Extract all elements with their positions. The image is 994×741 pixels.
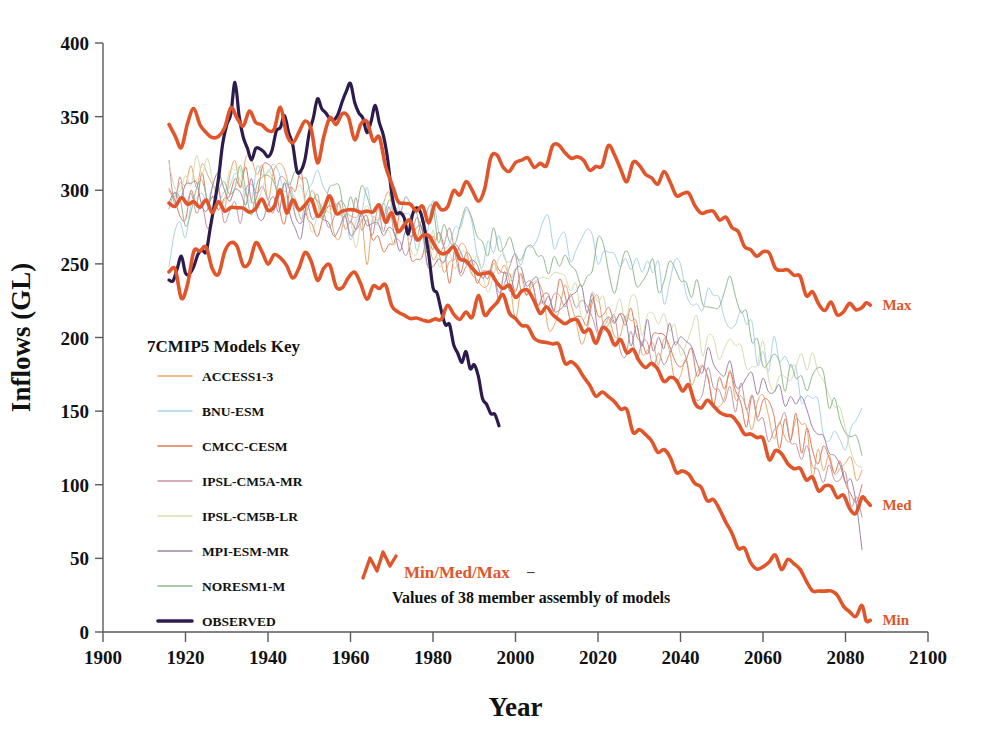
x-tick-label: 2100 [909,647,947,668]
x-tick-label: 2080 [827,647,865,668]
legend-item-label: CMCC-CESM [202,439,288,454]
legend-title: 7CMIP5 Models Key [147,337,300,356]
x-tick-label: 1900 [84,647,122,668]
annotation-headline: Min/Med/Max [404,563,510,582]
x-tick-label: 1980 [414,647,452,668]
inflows-projection-chart: 0501001502002503003504001900192019401960… [0,0,994,741]
legend-item-label: OBSERVED [202,614,276,629]
chart-page: 0501001502002503003504001900192019401960… [0,0,994,741]
x-tick-label: 2020 [579,647,617,668]
y-tick-label: 350 [61,107,90,128]
legend-item-label: IPSL-CM5A-MR [202,474,303,489]
y-tick-label: 50 [70,548,89,569]
band-label-med: Med [882,497,912,513]
band-label-max: Max [882,297,912,313]
x-axis-title: Year [489,692,543,722]
x-tick-label: 2060 [744,647,782,668]
y-axis-title: Inflows (GL) [6,263,36,412]
x-tick-label: 1960 [332,647,370,668]
y-tick-label: 200 [61,328,90,349]
annotation-subtext: Values of 38 member assembly of models [392,589,670,607]
y-tick-label: 100 [61,475,90,496]
legend-item-label: BNU-ESM [202,404,265,419]
legend-item-label: NORESM1-M [202,579,285,594]
y-tick-label: 300 [61,180,90,201]
y-tick-label: 0 [80,622,90,643]
legend-item-label: ACCESS1-3 [202,369,274,384]
x-tick-label: 1920 [167,647,205,668]
y-tick-label: 150 [61,401,90,422]
band-label-min: Min [882,612,909,628]
annotation-dash: – [526,563,535,579]
y-tick-label: 400 [61,33,90,54]
legend-item-label: MPI-ESM-MR [202,544,289,559]
x-tick-label: 2040 [662,647,700,668]
chart-background [0,0,994,741]
x-tick-label: 2000 [497,647,535,668]
legend-item-label: IPSL-CM5B-LR [202,509,298,524]
y-tick-label: 250 [61,254,90,275]
x-tick-label: 1940 [249,647,287,668]
